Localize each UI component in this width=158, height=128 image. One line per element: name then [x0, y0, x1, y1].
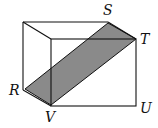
label-t: T: [140, 31, 151, 47]
label-u: U: [140, 100, 153, 116]
label-v: V: [45, 109, 57, 125]
label-s: S: [103, 2, 113, 18]
prism-diagram: S T R U V: [0, 0, 158, 128]
shaded-plane: [25, 23, 136, 105]
label-r: R: [8, 82, 20, 98]
